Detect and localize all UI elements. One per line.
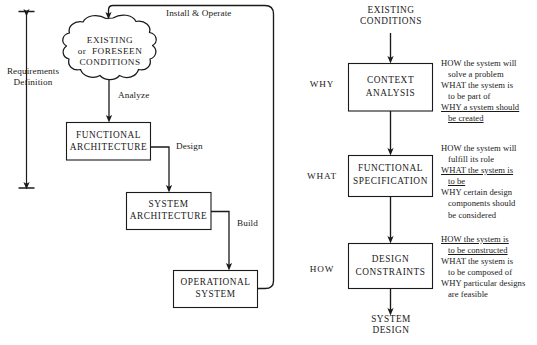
- stage-label-why: WHY: [300, 79, 344, 90]
- existing-conditions-input-label: EXISTING CONDITIONS: [345, 5, 437, 27]
- functional-architecture-line1: FUNCTIONAL: [66, 130, 151, 141]
- systems-engineering-diagram: Requirements Definition EXISTING or FORE…: [0, 0, 537, 345]
- annotation-context-analysis: HOW the system willsolve a problemWHAT t…: [441, 58, 519, 125]
- annotation-line: be considered: [441, 210, 517, 221]
- annotation-line: to be: [441, 176, 517, 187]
- annotation-line: WHAT the system is: [441, 80, 519, 91]
- requirements-definition-label: Requirements Definition: [2, 66, 64, 88]
- operational-system-line2: SYSTEM: [173, 289, 258, 300]
- stage-label-what: WHAT: [300, 171, 344, 182]
- annotation-line: components should: [441, 198, 517, 209]
- system-design-output-label: SYSTEM DESIGN: [345, 314, 437, 336]
- functional-architecture-line2: ARCHITECTURE: [66, 142, 151, 153]
- annotation-line: solve a problem: [441, 69, 519, 80]
- stage-label-how: HOW: [300, 264, 344, 275]
- annotation-line: WHAT the system is: [441, 165, 517, 176]
- annotation-line: HOW the system will: [441, 143, 517, 154]
- design-label: Design: [176, 141, 203, 152]
- annotation-design-constraints: HOW the system isto be constructedWHAT t…: [441, 234, 525, 301]
- cloud-label-line1: EXISTING: [64, 35, 156, 47]
- functional-specification-line2: SPECIFICATION: [348, 176, 433, 187]
- annotation-line: HOW the system is: [441, 234, 525, 245]
- operational-system-line1: OPERATIONAL: [173, 277, 258, 288]
- annotation-line: WHAT the system is: [441, 256, 525, 267]
- cloud-label-line2: or FORESEEN: [64, 46, 156, 58]
- annotation-line: fulfill its role: [441, 154, 517, 165]
- context-analysis-line1: CONTEXT: [348, 75, 433, 86]
- requirements-bracket: [19, 12, 35, 189]
- system-architecture-line1: SYSTEM: [126, 199, 211, 210]
- annotation-line: to be composed of: [441, 267, 525, 278]
- design-constraints-line1: DESIGN: [348, 254, 433, 265]
- annotation-line: WHY certain design: [441, 187, 517, 198]
- cloud-label-line3: CONDITIONS: [64, 57, 156, 69]
- annotation-line: WHY a system should: [441, 102, 519, 113]
- annotation-functional-specification: HOW the system willfulfill its roleWHAT …: [441, 143, 517, 221]
- annotation-line: be created: [441, 113, 519, 124]
- analyze-label: Analyze: [118, 90, 149, 101]
- annotation-line: to be constructed: [441, 245, 525, 256]
- left-flow-connectors: [109, 80, 229, 268]
- annotation-line: are feasible: [441, 289, 525, 300]
- design-constraints-line2: CONSTRAINTS: [348, 267, 433, 278]
- build-label: Build: [237, 218, 258, 229]
- annotation-line: HOW the system will: [441, 58, 519, 69]
- annotation-line: WHY particular designs: [441, 278, 525, 289]
- annotation-line: to be part of: [441, 91, 519, 102]
- functional-specification-line1: FUNCTIONAL: [348, 163, 433, 174]
- install-operate-label: Install & Operate: [166, 8, 231, 19]
- context-analysis-line2: ANALYSIS: [348, 88, 433, 99]
- system-architecture-line2: ARCHITECTURE: [126, 211, 211, 222]
